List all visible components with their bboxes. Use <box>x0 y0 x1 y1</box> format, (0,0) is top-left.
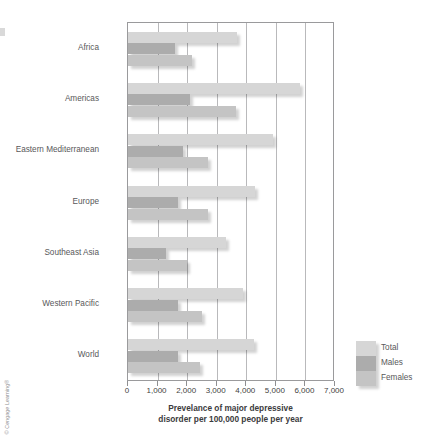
legend-label-total: Total <box>381 343 398 352</box>
x-axis-tick-label: 0 <box>125 386 129 395</box>
x-axis-tick-label: 7,000 <box>324 386 344 395</box>
bar-row <box>128 237 333 248</box>
bar-females <box>128 106 236 117</box>
bar-total <box>128 186 255 197</box>
category-label: Western Pacific <box>42 299 99 309</box>
bar-row <box>128 362 333 373</box>
bar-row <box>128 146 333 157</box>
bar-row <box>128 209 333 220</box>
x-axis-title-line1: Prevelance of major depressive <box>127 403 334 414</box>
legend-swatch-total <box>356 341 376 356</box>
bar-row <box>128 186 333 197</box>
category-label: Southeast Asia <box>44 248 99 258</box>
bar-males <box>128 351 178 362</box>
category-label: Europe <box>73 197 99 207</box>
bar-row <box>128 260 333 271</box>
plot-area <box>127 22 334 381</box>
bar-total <box>128 288 243 299</box>
bar-total <box>128 237 226 248</box>
bar-row <box>128 288 333 299</box>
x-axis-tick-label: 1,000 <box>147 386 167 395</box>
legend-label-males: Males <box>381 358 403 367</box>
bar-row <box>128 32 333 43</box>
x-axis-title-line2: disorder per 100,000 people per year <box>127 414 334 425</box>
bar-females <box>128 209 208 220</box>
bar-row <box>128 83 333 94</box>
legend-item-females: Females <box>356 371 436 386</box>
bar-row <box>128 55 333 66</box>
bar-total <box>128 339 254 350</box>
bar-males <box>128 248 166 259</box>
legend-item-total: Total <box>356 341 436 356</box>
bar-row <box>128 197 333 208</box>
legend-item-males: Males <box>356 356 436 371</box>
x-axis-tick-label: 5,000 <box>265 386 285 395</box>
bar-row <box>128 351 333 362</box>
x-axis-tick-label: 3,000 <box>206 386 226 395</box>
bar-chart: AfricaAmericasEastern MediterraneanEurop… <box>0 0 438 446</box>
bar-row <box>128 94 333 105</box>
bar-males <box>128 43 175 54</box>
bar-females <box>128 260 187 271</box>
bar-males <box>128 300 178 311</box>
bar-row <box>128 339 333 350</box>
bar-males <box>128 146 183 157</box>
category-label: World <box>78 350 99 360</box>
legend-label-females: Females <box>381 373 412 382</box>
legend-swatch-females <box>356 371 376 386</box>
x-axis-tick-label: 2,000 <box>176 386 196 395</box>
bar-total <box>128 83 300 94</box>
bar-row <box>128 157 333 168</box>
bar-females <box>128 157 208 168</box>
bar-males <box>128 197 178 208</box>
x-axis-tick-label: 4,000 <box>235 386 255 395</box>
x-axis-tick-label: 6,000 <box>294 386 314 395</box>
chart-legend: TotalMalesFemales <box>356 341 436 386</box>
category-label: Americas <box>65 94 99 104</box>
bar-row <box>128 43 333 54</box>
bar-females <box>128 55 192 66</box>
bar-row <box>128 248 333 259</box>
bar-females <box>128 362 200 373</box>
bar-row <box>128 134 333 145</box>
x-axis-title: Prevelance of major depressive disorder … <box>127 403 334 425</box>
bar-males <box>128 94 190 105</box>
bar-row <box>128 300 333 311</box>
bar-row <box>128 311 333 322</box>
bar-females <box>128 311 202 322</box>
legend-swatch-males <box>356 356 376 371</box>
bar-row <box>128 106 333 117</box>
bar-total <box>128 134 273 145</box>
bar-total <box>128 32 237 43</box>
category-label: Africa <box>78 43 99 53</box>
category-label: Eastern Mediterranean <box>16 145 99 155</box>
